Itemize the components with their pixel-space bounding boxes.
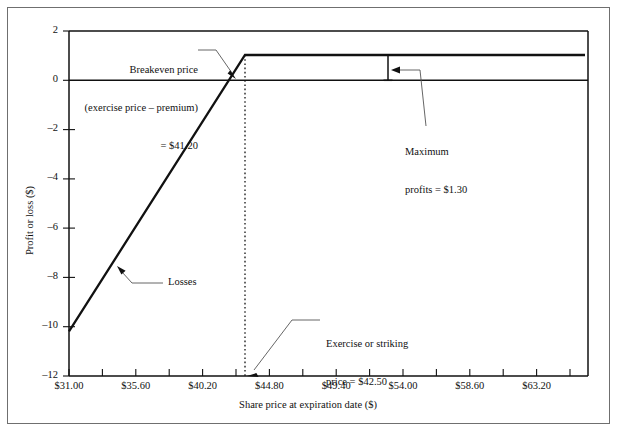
maximum-profits-leader (400, 70, 426, 126)
maximum-profits-arrowhead (391, 67, 400, 74)
annotation-breakeven: Breakeven price (exercise price – premiu… (40, 38, 198, 179)
y-tick-label: –8 (32, 270, 58, 283)
y-axis-title: Profit or loss ($) (24, 186, 37, 255)
maximum-profit-bracket (384, 55, 393, 80)
x-axis-ticks (69, 369, 570, 376)
x-tick-label: $44.80 (239, 380, 299, 393)
annotation-losses: Losses (168, 276, 228, 289)
annotation-exercise-line2: price = $42.50 (326, 376, 486, 389)
losses-arrowhead (117, 266, 126, 274)
annotation-maximum-line1: Maximum (405, 146, 545, 159)
y-tick-label: –10 (26, 319, 58, 332)
x-tick-label: $63.20 (507, 380, 567, 393)
annotation-breakeven-line1: Breakeven price (40, 64, 198, 77)
annotation-maximum-profits: Maximum profits = $1.30 (405, 120, 545, 222)
x-tick-label: $40.20 (173, 380, 233, 393)
breakeven-leader (198, 50, 232, 73)
annotation-exercise-line1: Exercise or striking (326, 338, 486, 351)
losses-leader (122, 272, 163, 283)
annotation-breakeven-line2: (exercise price – premium) (40, 102, 198, 115)
exercise-price-leader (254, 320, 320, 370)
annotation-maximum-line2: profits = $1.30 (405, 184, 545, 197)
payoff-chart-figure: 2 0 –2 –4 –6 –8 –10 –12 $31.00 $35.60 $4… (0, 0, 619, 435)
annotation-exercise-price: Exercise or striking price = $42.50 (326, 312, 486, 414)
x-tick-label: $31.00 (39, 380, 99, 393)
annotation-breakeven-line3: = $41.20 (40, 140, 198, 153)
x-tick-label: $35.60 (106, 380, 166, 393)
y-tick-label: 2 (32, 24, 58, 37)
